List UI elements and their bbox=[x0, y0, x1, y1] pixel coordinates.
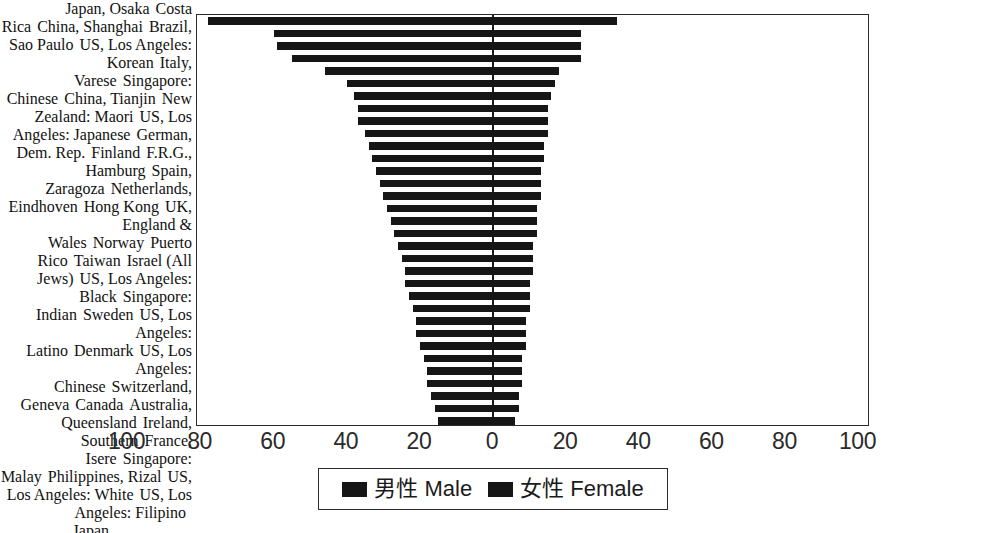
bar-male bbox=[431, 392, 493, 399]
bar-row bbox=[197, 140, 868, 153]
category-label: Denmark bbox=[74, 342, 140, 359]
bar-male bbox=[292, 55, 493, 62]
category-label: China, Tianjin bbox=[64, 90, 162, 107]
bar-male bbox=[387, 205, 493, 212]
bars-layer bbox=[197, 15, 868, 425]
bar-male bbox=[277, 42, 493, 49]
bar-male bbox=[354, 92, 493, 99]
bar-male bbox=[438, 417, 493, 424]
bar-male bbox=[372, 155, 493, 162]
bar-row bbox=[197, 28, 868, 41]
bar-row bbox=[197, 15, 868, 28]
axis-tick-label: 20 bbox=[406, 428, 431, 455]
bar-male bbox=[409, 292, 493, 299]
bar-row bbox=[197, 165, 868, 178]
left-category-labels: Japan, OsakaCosta RicaChina, ShanghaiBra… bbox=[0, 0, 192, 522]
bar-row bbox=[197, 290, 868, 303]
bar-female bbox=[493, 355, 522, 362]
bar-row bbox=[197, 265, 868, 278]
bar-male bbox=[413, 305, 493, 312]
bar-male bbox=[420, 342, 493, 349]
right-category-labels: Japan, OsakaCosta RicaBrazil, Sao PauloC… bbox=[0, 522, 113, 533]
category-label: China, Shanghai bbox=[37, 18, 149, 35]
axis-tick-label: 100 bbox=[839, 428, 876, 455]
plot-area bbox=[196, 14, 869, 426]
bar-female bbox=[493, 167, 541, 174]
bar-male bbox=[365, 130, 493, 137]
axis-tick-label: 20 bbox=[553, 428, 578, 455]
bar-female bbox=[493, 217, 537, 224]
bar-female bbox=[493, 230, 537, 237]
bar-male bbox=[369, 142, 493, 149]
legend-swatch-female bbox=[488, 482, 513, 497]
bar-row bbox=[197, 40, 868, 53]
bar-male bbox=[435, 405, 493, 412]
bar-male bbox=[416, 330, 493, 337]
bar-male bbox=[208, 17, 493, 24]
bar-male bbox=[416, 317, 493, 324]
axis-tick-label: 40 bbox=[626, 428, 651, 455]
bar-row bbox=[197, 303, 868, 316]
bar-female bbox=[493, 317, 526, 324]
bar-male bbox=[405, 280, 493, 287]
bar-male bbox=[380, 180, 493, 187]
bar-row bbox=[197, 178, 868, 191]
category-label: Japan, Osaka bbox=[65, 0, 155, 17]
bar-female bbox=[493, 92, 551, 99]
bar-male bbox=[347, 80, 493, 87]
bar-female bbox=[493, 142, 544, 149]
bar-row bbox=[197, 340, 868, 353]
bar-row bbox=[197, 128, 868, 141]
bar-female bbox=[493, 380, 522, 387]
axis-tick-label: 40 bbox=[333, 428, 358, 455]
bar-row bbox=[197, 103, 868, 116]
bar-row bbox=[197, 253, 868, 266]
bar-female bbox=[493, 80, 555, 87]
bar-row bbox=[197, 90, 868, 103]
bar-female bbox=[493, 105, 548, 112]
bar-row bbox=[197, 415, 868, 425]
legend-item-female: 女性 Female bbox=[488, 478, 643, 500]
bar-female bbox=[493, 392, 519, 399]
bar-female bbox=[493, 242, 533, 249]
bar-male bbox=[391, 217, 493, 224]
bar-male bbox=[358, 117, 493, 124]
bar-female bbox=[493, 42, 581, 49]
axis-tick-label: 80 bbox=[187, 428, 212, 455]
x-axis: 10080604020020406080100 bbox=[196, 428, 869, 458]
category-label: Sweden bbox=[83, 306, 140, 323]
bar-female bbox=[493, 130, 548, 137]
legend-label-male: 男性 Male bbox=[374, 478, 472, 500]
bar-male bbox=[376, 167, 493, 174]
axis-tick-label: 100 bbox=[108, 428, 145, 455]
category-label: Taiwan bbox=[74, 252, 127, 269]
axis-tick-label: 60 bbox=[260, 428, 285, 455]
bar-female bbox=[493, 67, 559, 74]
chart-legend: 男性 Male 女性 Female bbox=[318, 468, 668, 510]
bar-row bbox=[197, 403, 868, 416]
bar-male bbox=[274, 30, 493, 37]
bar-row bbox=[197, 203, 868, 216]
bar-female bbox=[493, 342, 526, 349]
bar-row bbox=[197, 378, 868, 391]
category-label: Norway bbox=[93, 234, 151, 251]
bar-female bbox=[493, 117, 548, 124]
bar-female bbox=[493, 417, 515, 424]
bar-female bbox=[493, 192, 541, 199]
bar-row bbox=[197, 315, 868, 328]
bar-female bbox=[493, 17, 617, 24]
legend-swatch-male bbox=[342, 482, 367, 497]
bar-female bbox=[493, 280, 530, 287]
bar-female bbox=[493, 155, 544, 162]
bar-row bbox=[197, 53, 868, 66]
bar-female bbox=[493, 55, 581, 62]
bar-female bbox=[493, 330, 526, 337]
bar-row bbox=[197, 390, 868, 403]
category-label: Hong Kong bbox=[84, 198, 165, 215]
bar-male bbox=[402, 255, 493, 262]
bar-male bbox=[424, 355, 493, 362]
bar-female bbox=[493, 405, 519, 412]
bar-female bbox=[493, 267, 533, 274]
bar-male bbox=[394, 230, 493, 237]
bar-female bbox=[493, 255, 533, 262]
